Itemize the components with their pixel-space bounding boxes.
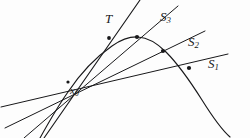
- secant-line-S3: [24, 6, 178, 138]
- secant-label-S2: S2: [188, 35, 199, 50]
- secant-label-S3-sub: 3: [167, 15, 171, 25]
- secant-label-S3: S3: [160, 10, 171, 25]
- secant-label-S2-sub: 2: [195, 40, 199, 50]
- secant-point-dot-S1: [187, 66, 191, 70]
- secant-line-S2: [5, 31, 205, 128]
- figure-container: T S3 S2 S1 x0: [0, 0, 250, 138]
- secant-point-dot-S3: [135, 35, 139, 39]
- secant-point-dot-S2: [161, 49, 165, 53]
- secant-line-S1: [1, 54, 228, 107]
- tangent-label-base: T: [105, 11, 112, 26]
- secant-label-S1: S1: [208, 57, 219, 72]
- tangency-point-dot: [107, 36, 111, 40]
- function-curve: [40, 37, 230, 138]
- point-label-x0-sub: 0: [75, 89, 79, 98]
- secant-label-S1-sub: 1: [215, 62, 219, 72]
- tangent-label-T: T: [105, 12, 112, 27]
- point-label-x0: x0: [70, 85, 79, 98]
